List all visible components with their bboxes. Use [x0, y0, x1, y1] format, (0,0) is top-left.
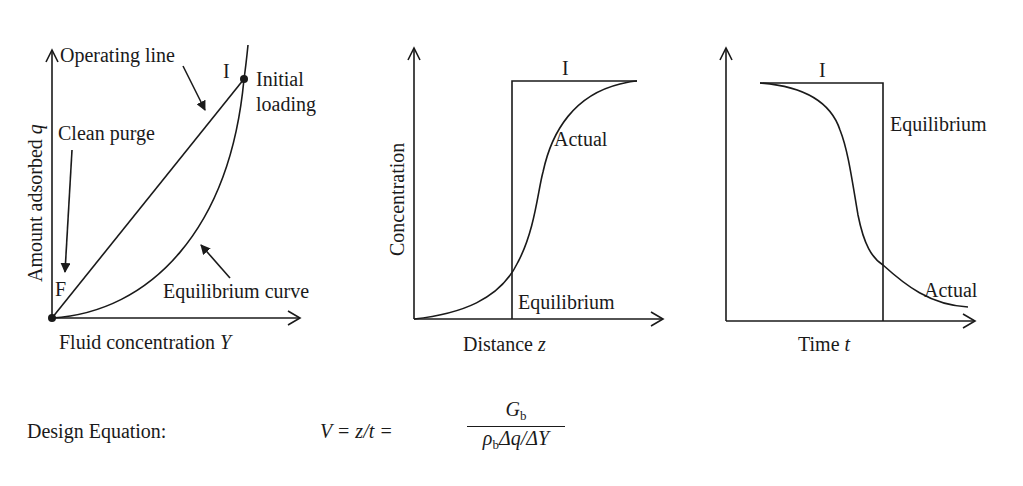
- time-profile-panel: I Equilibrium Actual Time t: [720, 48, 987, 355]
- initial-loading-label-line1: Initial: [256, 68, 304, 90]
- clean-purge-arrow-icon: [65, 150, 72, 272]
- isotherm-panel: Operating line I Initial loading Clean p…: [24, 44, 316, 353]
- actual-label: Actual: [554, 128, 608, 150]
- equilibrium-curve-label: Equilibrium curve: [163, 280, 309, 303]
- equilibrium-curve-arrow-icon: [201, 245, 230, 278]
- x-axis-label: Time t: [798, 333, 851, 355]
- point-f-label: F: [55, 278, 66, 300]
- equilibrium-label: Equilibrium: [518, 291, 615, 314]
- fraction-denominator: ρbΔq/ΔY: [467, 427, 565, 453]
- fraction-numerator: Gb: [467, 398, 565, 426]
- equilibrium-curve: [52, 45, 248, 318]
- design-equation-fraction: Gb ρbΔq/ΔY: [467, 398, 565, 453]
- top-label: I: [819, 59, 826, 81]
- operating-line-label: Operating line: [60, 44, 175, 67]
- equilibrium-step-line: [512, 81, 637, 319]
- equilibrium-label: Equilibrium: [890, 113, 987, 136]
- design-equation-label: Design Equation:: [27, 420, 166, 443]
- actual-curve: [414, 81, 637, 319]
- top-label: I: [562, 57, 569, 79]
- point-i-label: I: [223, 60, 230, 82]
- design-equation-lhs: V = z/t =: [320, 420, 393, 443]
- equilibrium-step-line: [760, 83, 883, 321]
- y-axis-label: Amount adsorbed q: [24, 124, 47, 282]
- clean-purge-label: Clean purge: [58, 122, 155, 145]
- actual-label: Actual: [924, 279, 978, 301]
- operating-line-arrow-icon: [183, 66, 205, 110]
- x-axis-label: Distance z: [463, 333, 546, 355]
- y-axis-label: Concentration: [386, 143, 408, 256]
- initial-loading-label-line2: loading: [256, 93, 316, 116]
- point-f-marker: [48, 314, 56, 322]
- distance-profile-panel: I Actual Equilibrium Distance z Concentr…: [386, 48, 663, 355]
- point-i-marker: [240, 75, 248, 83]
- x-axis-label: Fluid concentration Y: [59, 331, 233, 353]
